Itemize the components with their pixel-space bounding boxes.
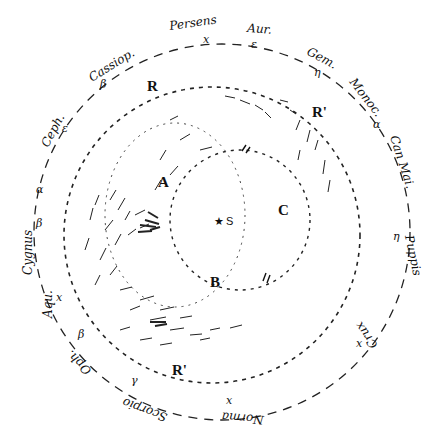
star-cygnus-alpha: α bbox=[36, 183, 44, 196]
star-gemini: η bbox=[314, 66, 321, 79]
star-ophiuchus: β bbox=[77, 328, 84, 341]
region-c: C bbox=[278, 202, 289, 218]
star-can-major: α bbox=[373, 118, 381, 131]
constellation-cygnus: Cygnus bbox=[21, 230, 35, 275]
star-norma: x bbox=[226, 394, 233, 407]
galaxy-diagram: ★ S A B C R R' R' Persens x Aur. ε Gem. … bbox=[0, 0, 439, 445]
constellation-can-major: Can Mai. bbox=[387, 134, 417, 191]
constellation-puppis: Puppis bbox=[402, 233, 424, 277]
star-cepheus: ε bbox=[62, 122, 68, 135]
constellation-ophiuchus: Oph. bbox=[64, 347, 94, 377]
region-r-bottom: R' bbox=[172, 362, 187, 378]
star-cassiopeia: β bbox=[99, 78, 106, 91]
star-aquila: x bbox=[56, 291, 63, 304]
star-scorpio: γ bbox=[131, 374, 138, 387]
constellation-perseus: Persens bbox=[167, 12, 217, 33]
star-auriga: ε bbox=[251, 38, 257, 51]
star-crux: x bbox=[356, 337, 363, 350]
region-b: B bbox=[210, 274, 220, 290]
constellation-aquila: Aqu. bbox=[41, 290, 55, 319]
constellation-cassiopeia: Cassiop. bbox=[86, 46, 137, 85]
constellation-monoceros: Monoc. bbox=[346, 74, 385, 119]
constellation-scorpio: Scorpio bbox=[120, 395, 169, 424]
star-puppis: η bbox=[393, 230, 400, 243]
sun-star-icon: ★ bbox=[214, 215, 224, 227]
star-cygnus: β bbox=[35, 217, 42, 230]
sun-label: S bbox=[226, 215, 233, 227]
constellation-norma: Norma bbox=[221, 409, 265, 427]
region-a: A bbox=[158, 174, 169, 190]
label-layer: ★ S A B C R R' R' Persens x Aur. ε Gem. … bbox=[0, 0, 439, 445]
region-r-right: R' bbox=[312, 104, 327, 120]
region-r-top: R bbox=[147, 78, 158, 94]
constellation-auriga: Aur. bbox=[246, 21, 273, 37]
constellation-gemini: Gem. bbox=[305, 44, 340, 71]
star-perseus: x bbox=[203, 33, 210, 46]
